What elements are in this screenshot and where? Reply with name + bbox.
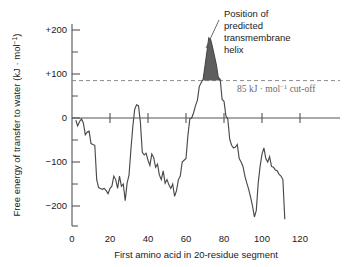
- x-tick-label-120: 120: [292, 233, 308, 244]
- x-tick-label-80: 80: [219, 233, 230, 244]
- x-tick-label-0: 0: [69, 233, 74, 244]
- y-axis-title-main: Free energy of transfer to water (kJ: [11, 66, 22, 217]
- y-tick-label-minus100: −100: [46, 156, 67, 167]
- y-tick-label-200: +200: [46, 24, 67, 35]
- cutoff-label-tail: cut-off: [287, 84, 316, 94]
- cutoff-label-mid: · mol: [257, 84, 280, 94]
- x-tick-label-100: 100: [254, 233, 270, 244]
- cutoff-label: 85 kJ · mol−1 cut-off: [237, 83, 316, 94]
- y-axis-title-mid: · mol: [11, 44, 22, 65]
- peak-annotation-line2: predicted: [224, 20, 263, 31]
- x-tick-label-60: 60: [181, 233, 192, 244]
- cutoff-label-value: 85 kJ: [237, 84, 258, 94]
- y-tick-label-100: +100: [46, 68, 67, 79]
- peak-annotation-line4: helix: [224, 44, 244, 55]
- x-axis-title: First amino acid in 20-residue segment: [114, 249, 278, 260]
- y-axis-title-tail: ): [11, 33, 22, 36]
- y-tick-label-0: 0: [62, 112, 67, 123]
- hydropathy-plot-svg: +200 +100 0 −100 −200 0 20 40 60 80 100 …: [0, 0, 346, 267]
- y-axis-title: Free energy of transfer to water (kJ · m…: [11, 33, 22, 216]
- y-tick-label-minus200: −200: [46, 200, 67, 211]
- x-tick-label-40: 40: [143, 233, 154, 244]
- x-tick-label-20: 20: [105, 233, 116, 244]
- annotation-leader-line: [206, 20, 219, 48]
- peak-annotation-line1: Position of: [224, 8, 269, 19]
- cutoff-label-superscript: −1: [280, 83, 287, 90]
- hydropathy-plot-figure: +200 +100 0 −100 −200 0 20 40 60 80 100 …: [0, 0, 346, 267]
- peak-annotation-line3: transmembrane: [224, 32, 291, 43]
- hydropathy-curve-main: [76, 38, 285, 219]
